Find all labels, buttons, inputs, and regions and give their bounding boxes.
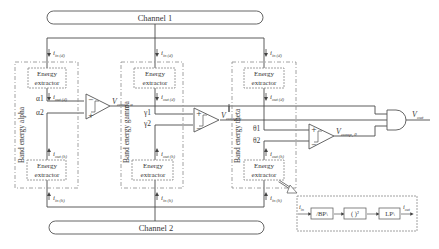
and-gate <box>387 110 406 130</box>
energy-extractor-theta-top: Energy extractor <box>244 68 284 88</box>
channel-2: Channel 2 <box>49 221 264 234</box>
svg-text:( )²: ( )² <box>351 210 359 218</box>
svg-text:iin (h): iin (h) <box>270 194 282 203</box>
svg-text:Energy: Energy <box>37 162 58 170</box>
energy-extractor-gamma-bottom: Energy extractor <box>132 160 173 180</box>
energy-detector-diagram: Channel 1 Channel 2 <box>0 0 439 249</box>
svg-text:iout (d): iout (d) <box>161 93 176 102</box>
band-alpha-label: Band energy alpha <box>17 106 26 163</box>
svg-text:LP\: LP\ <box>385 210 395 217</box>
energy-extractor-alpha-top: Energy extractor <box>28 68 66 88</box>
svg-text:extractor: extractor <box>143 79 169 87</box>
channel-2-label: Channel 2 <box>139 223 174 233</box>
svg-text:extractor: extractor <box>252 79 278 87</box>
svg-text:iout (h): iout (h) <box>270 150 285 159</box>
svg-text:extractor: extractor <box>35 79 61 87</box>
svg-text:Energy: Energy <box>254 70 275 78</box>
svg-text:extractor: extractor <box>141 171 167 179</box>
svg-text:Energy: Energy <box>254 162 275 170</box>
svg-text:−: − <box>196 125 202 133</box>
energy-extractor-theta-bottom: Energy extractor <box>244 160 284 180</box>
svg-text:iout (h): iout (h) <box>161 150 176 159</box>
theta-2-label: θ2 <box>253 136 261 145</box>
svg-text:+: + <box>88 112 94 120</box>
inset-pointer-arrow <box>279 181 297 193</box>
energy-extractor-gamma-top: Energy extractor <box>134 68 175 88</box>
energy-extractor-inset: iin /BP\ ( )² LP\ iout <box>297 196 417 231</box>
band-gamma-label: Band energy gamma <box>122 100 131 163</box>
gamma-2-label: γ2 <box>143 119 151 128</box>
energy-extractors: Energy extractor Energy extractor Energy… <box>27 68 284 180</box>
comparator-theta: + − <box>309 124 334 149</box>
svg-text:−: − <box>311 141 317 149</box>
channel-1-label: Channel 1 <box>138 13 173 23</box>
gamma-1-label: γ1 <box>143 108 151 117</box>
svg-text:extractor: extractor <box>252 171 278 179</box>
channel-1: Channel 1 <box>47 11 263 24</box>
svg-text:iin (d): iin (d) <box>161 49 173 58</box>
svg-text:Energy: Energy <box>145 70 166 78</box>
v-out-label: Vout <box>412 110 424 120</box>
comparator-gamma: + − <box>194 108 219 133</box>
svg-text:+: + <box>311 126 317 134</box>
svg-text:+: + <box>196 110 202 118</box>
alpha-1-label: α1 <box>36 94 44 103</box>
alpha-2-label: α2 <box>36 108 44 117</box>
energy-extractor-alpha-bottom: Energy extractor <box>27 160 66 180</box>
svg-text:iin (d): iin (d) <box>270 49 282 58</box>
svg-text:iin (d): iin (d) <box>53 49 65 58</box>
svg-text:−: − <box>88 96 94 104</box>
svg-text:iout (d): iout (d) <box>270 93 285 102</box>
svg-text:iin (h): iin (h) <box>53 194 65 203</box>
svg-text:Energy: Energy <box>143 162 164 170</box>
svg-text:/BP\: /BP\ <box>316 210 328 217</box>
svg-text:iout (h): iout (h) <box>53 150 68 159</box>
theta-1-label: θ1 <box>253 124 261 133</box>
svg-text:Energy: Energy <box>37 70 58 78</box>
comparator-alpha: − + <box>86 94 110 120</box>
svg-text:extractor: extractor <box>35 171 61 179</box>
svg-text:iout (d): iout (d) <box>53 93 68 102</box>
svg-text:iin (h): iin (h) <box>161 194 173 203</box>
